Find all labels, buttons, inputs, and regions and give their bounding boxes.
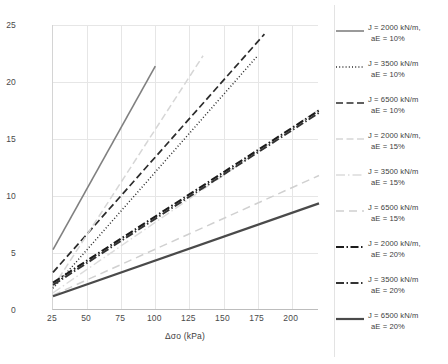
legend-label: J = 3500 kN/maE = 10%: [368, 59, 418, 80]
legend-label: J = 2000 kN/m,aE = 10%: [368, 23, 421, 44]
legend-item-4[interactable]: J = 2000 kN/m,aE = 15%: [335, 131, 448, 161]
series-line-9: [53, 203, 319, 296]
y-tick-label: 15: [0, 134, 16, 144]
legend-item-1[interactable]: J = 2000 kN/m,aE = 10%: [335, 23, 448, 53]
series-lines: [53, 25, 319, 310]
chart-legend: J = 2000 kN/m,aE = 10%J = 3500 kN/maE = …: [334, 5, 448, 357]
legend-label: J = 2000 kN/m,aE = 20%: [368, 239, 421, 260]
series-line-3: [53, 34, 264, 272]
series-line-6: [53, 175, 319, 295]
legend-swatch-icon: [335, 96, 365, 110]
legend-label: J = 6500 kN/maE = 10%: [368, 95, 418, 116]
x-axis-title: Δσo (kPa): [52, 331, 318, 341]
legend-item-9[interactable]: J = 6500 kN/maE = 20%: [335, 311, 448, 341]
legend-swatch-icon: [335, 24, 365, 38]
series-line-1: [53, 66, 155, 250]
legend-swatch-icon: [335, 204, 365, 218]
series-line-8: [53, 113, 319, 285]
legend-swatch-icon: [335, 60, 365, 74]
legend-label: J = 3500 kN/maE = 15%: [368, 167, 418, 188]
legend-swatch-icon: [335, 312, 365, 326]
legend-swatch-icon: [335, 276, 365, 290]
series-line-5: [53, 109, 319, 293]
legend-label: J = 6500 kN/maE = 15%: [368, 203, 418, 224]
legend-label: J = 2000 kN/m,aE = 15%: [368, 131, 421, 152]
y-tick-label: 20: [0, 77, 16, 87]
legend-item-8[interactable]: J = 3500 kN/maE = 20%: [335, 275, 448, 305]
plot-area: [52, 25, 318, 310]
y-tick-label: 0: [0, 305, 16, 315]
legend-label: J = 3500 kN/maE = 20%: [368, 275, 418, 296]
legend-item-3[interactable]: J = 6500 kN/maE = 10%: [335, 95, 448, 125]
legend-swatch-icon: [335, 240, 365, 254]
legend-item-7[interactable]: J = 2000 kN/m,aE = 20%: [335, 239, 448, 269]
legend-swatch-icon: [335, 168, 365, 182]
y-tick-label: 10: [0, 191, 16, 201]
plot-wrapper: Δσv,s (kPa) 0510152025 25507510012515017…: [0, 0, 340, 364]
legend-item-2[interactable]: J = 3500 kN/maE = 10%: [335, 59, 448, 89]
legend-label: J = 6500 kN/maE = 20%: [368, 311, 418, 332]
x-tick-label: 200: [271, 313, 311, 323]
legend-item-6[interactable]: J = 6500 kN/maE = 15%: [335, 203, 448, 233]
y-tick-label: 5: [0, 248, 16, 258]
legend-item-5[interactable]: J = 3500 kN/maE = 15%: [335, 167, 448, 197]
chart-figure: Δσv,s (kPa) 0510152025 25507510012515017…: [0, 0, 448, 364]
legend-swatch-icon: [335, 132, 365, 146]
y-tick-label: 25: [0, 20, 16, 30]
